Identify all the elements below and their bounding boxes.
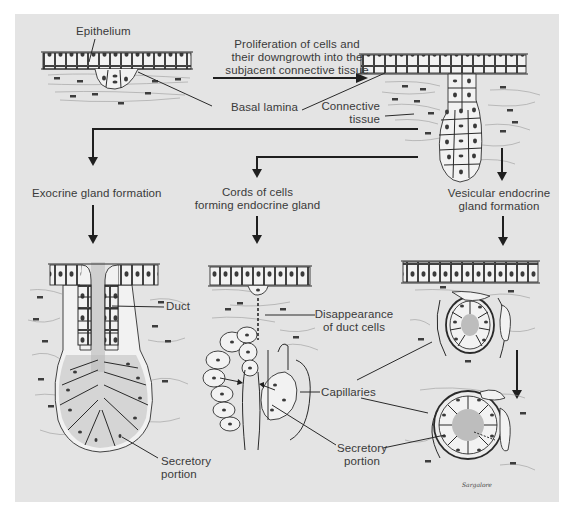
cord-endocrine-gland-drawing: [203, 266, 336, 450]
label-cords-of-cells: Cords of cells forming endocrine gland: [190, 186, 325, 212]
label-vesicular-endocrine: Vesicular endocrine gland formation: [440, 187, 558, 213]
label-connective-line1: Connective: [318, 100, 380, 113]
label-cords-line2: forming endocrine gland: [190, 199, 325, 212]
label-connective-tissue: Connective tissue: [318, 100, 380, 126]
label-disappearance-line1: Disappearance: [314, 308, 394, 321]
label-capillaries: Capillaries: [321, 386, 376, 399]
label-disappearance-line2: of duct cells: [314, 321, 394, 334]
label-exocrine-gland-formation: Exocrine gland formation: [32, 187, 162, 200]
label-secretory-exo-line1: Secretory: [161, 455, 211, 468]
label-secretory-portion-endocrine: Secretory portion: [332, 442, 392, 468]
vesicular-endocrine-gland-drawing: [357, 261, 540, 470]
label-secretory-portion-exocrine: Secretory portion: [161, 455, 211, 481]
exocrine-gland-drawing: [28, 262, 188, 458]
initial-epithelium-drawing: [41, 39, 193, 105]
label-proliferation-line1: Proliferation of cells and: [213, 38, 381, 51]
label-proliferation-line2: their downgrowth into the: [213, 51, 381, 64]
label-connective-line2: tissue: [318, 113, 380, 126]
artist-signature: Sargalore: [462, 481, 492, 488]
label-secretory-exo-line2: portion: [161, 468, 211, 481]
label-proliferation: Proliferation of cells and their downgro…: [213, 38, 381, 77]
label-secretory-endo-line1: Secretory: [332, 442, 392, 455]
label-basal-lamina: Basal lamina: [231, 101, 298, 114]
label-vesicular-line1: Vesicular endocrine: [440, 187, 558, 200]
label-proliferation-line3: subjacent connective tissue: [213, 64, 381, 77]
label-epithelium: Epithelium: [76, 25, 131, 38]
label-disappearance-duct-cells: Disappearance of duct cells: [314, 308, 394, 334]
label-cords-line1: Cords of cells: [190, 186, 325, 199]
label-vesicular-line2: gland formation: [440, 200, 558, 213]
label-duct: Duct: [166, 300, 190, 313]
proliferated-epithelium-drawing: [359, 54, 540, 182]
label-secretory-endo-line2: portion: [332, 455, 392, 468]
